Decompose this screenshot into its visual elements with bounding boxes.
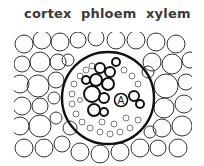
xylem-vessels [82,58,144,116]
plant-stem-cross-section: A [0,0,204,166]
marker-a-label: A [118,95,125,106]
